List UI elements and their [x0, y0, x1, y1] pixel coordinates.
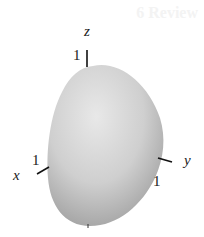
y-axis-label: y: [182, 152, 191, 168]
z-axis-label: z: [83, 23, 90, 39]
x-axis-tick: [37, 167, 49, 174]
x-axis-label: x: [12, 167, 20, 183]
x-tick-label: 1: [32, 152, 40, 168]
z-tick-label: 1: [73, 47, 81, 63]
closed-surface: [48, 65, 164, 226]
3d-surface-plot: z 1 x 1 y 1: [0, 0, 204, 237]
y-tick-label: 1: [153, 173, 161, 189]
